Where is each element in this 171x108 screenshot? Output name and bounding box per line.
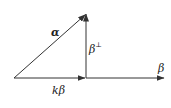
label-beta: β — [158, 63, 164, 74]
vector-diagram: α β⊥ kβ β — [0, 0, 171, 108]
diagram-canvas — [0, 0, 171, 108]
label-beta-perp: β⊥ — [89, 43, 102, 55]
vector-alpha — [14, 15, 86, 79]
label-k-beta: kβ — [52, 85, 65, 96]
label-beta-perp-sup: ⊥ — [95, 41, 102, 49]
label-alpha: α — [51, 27, 59, 38]
